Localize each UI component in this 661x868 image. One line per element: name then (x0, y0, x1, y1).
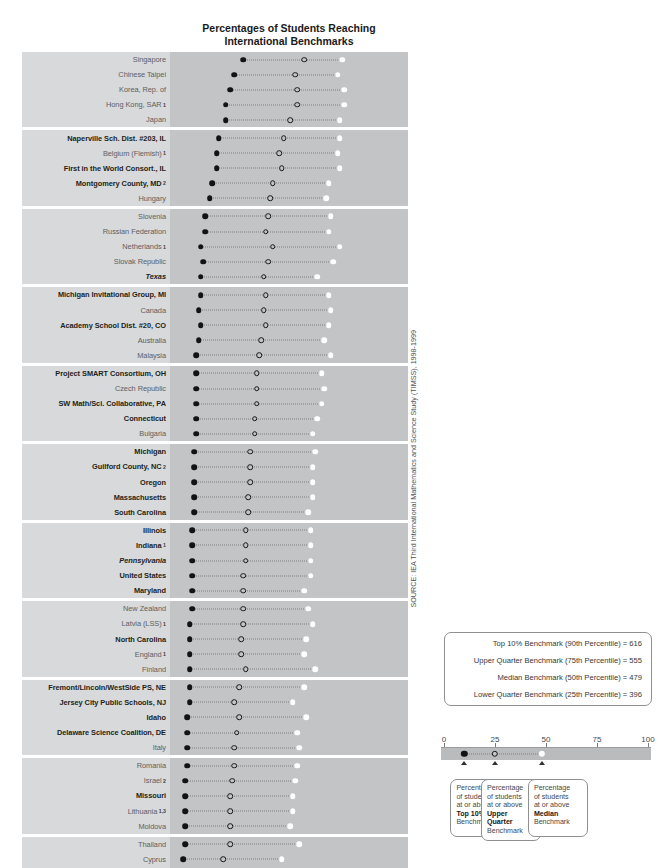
table-row[interactable]: Russian Federation (22, 224, 408, 239)
table-row[interactable]: Slovak Republic (22, 254, 408, 269)
upper-marker[interactable] (232, 700, 238, 706)
median-marker[interactable] (324, 196, 330, 202)
top10-marker[interactable] (194, 431, 200, 437)
median-marker[interactable] (290, 808, 296, 814)
median-marker[interactable] (297, 841, 303, 847)
top10-marker[interactable] (189, 588, 195, 594)
top10-marker[interactable] (187, 636, 193, 642)
table-row[interactable]: Oregon (22, 475, 408, 490)
table-row[interactable]: Michigan (22, 444, 408, 459)
top10-marker[interactable] (194, 353, 200, 359)
top10-marker[interactable] (182, 823, 188, 829)
upper-marker[interactable] (227, 808, 233, 814)
median-marker[interactable] (308, 573, 314, 579)
median-marker[interactable] (301, 588, 307, 594)
top10-marker[interactable] (241, 57, 247, 63)
top10-marker[interactable] (196, 307, 202, 313)
median-marker[interactable] (326, 322, 332, 328)
table-row[interactable]: Latvia (LSS)1 (22, 616, 408, 631)
top10-marker[interactable] (227, 87, 233, 93)
upper-marker[interactable] (292, 72, 298, 78)
median-marker[interactable] (341, 102, 347, 108)
top10-marker[interactable] (200, 259, 206, 265)
median-marker[interactable] (290, 700, 296, 706)
top10-marker[interactable] (189, 543, 195, 549)
table-row[interactable]: South Carolina (22, 505, 408, 520)
upper-marker[interactable] (236, 685, 242, 691)
table-row[interactable]: Canada (22, 303, 408, 318)
table-row[interactable]: Indiana1 (22, 538, 408, 553)
upper-marker[interactable] (252, 431, 258, 437)
top10-marker[interactable] (182, 778, 188, 784)
table-row[interactable]: Delaware Science Coalition, DE (22, 725, 408, 740)
upper-marker[interactable] (254, 371, 260, 377)
upper-marker[interactable] (270, 244, 276, 250)
table-row[interactable]: Naperville Sch. Dist. #203, IL (22, 130, 408, 145)
top10-marker[interactable] (189, 606, 195, 612)
median-marker[interactable] (328, 353, 334, 359)
median-marker[interactable] (315, 416, 321, 422)
upper-marker[interactable] (245, 494, 251, 500)
table-row[interactable]: Italy (22, 740, 408, 755)
upper-marker[interactable] (236, 715, 242, 721)
top10-marker[interactable] (194, 386, 200, 392)
median-marker[interactable] (279, 857, 285, 863)
median-marker[interactable] (308, 528, 314, 534)
top10-marker[interactable] (203, 229, 209, 235)
table-row[interactable]: New Zealand (22, 601, 408, 616)
top10-marker[interactable] (182, 808, 188, 814)
upper-marker[interactable] (256, 353, 262, 359)
table-row[interactable]: Michigan Invitational Group, MI (22, 287, 408, 302)
median-marker[interactable] (321, 337, 327, 343)
top10-marker[interactable] (207, 196, 213, 202)
table-row[interactable]: Malaysia (22, 348, 408, 363)
top10-marker[interactable] (182, 793, 188, 799)
upper-marker[interactable] (301, 57, 307, 63)
table-row[interactable]: Thailand (22, 837, 408, 852)
median-marker[interactable] (308, 543, 314, 549)
table-row[interactable]: Missouri (22, 788, 408, 803)
upper-marker[interactable] (229, 778, 235, 784)
upper-marker[interactable] (294, 87, 300, 93)
upper-marker[interactable] (265, 214, 271, 220)
median-marker[interactable] (328, 307, 334, 313)
upper-marker[interactable] (281, 135, 287, 141)
upper-marker[interactable] (234, 730, 240, 736)
top10-marker[interactable] (191, 464, 197, 470)
median-marker[interactable] (539, 751, 545, 757)
median-marker[interactable] (294, 763, 300, 769)
median-marker[interactable] (310, 431, 316, 437)
top10-marker[interactable] (198, 244, 204, 250)
top10-marker[interactable] (191, 494, 197, 500)
top10-marker[interactable] (194, 401, 200, 407)
upper-marker[interactable] (254, 386, 260, 392)
top10-marker[interactable] (194, 416, 200, 422)
table-row[interactable]: Jersey City Public Schools, NJ (22, 695, 408, 710)
median-marker[interactable] (294, 730, 300, 736)
median-marker[interactable] (312, 449, 318, 455)
table-row[interactable]: SW Math/Sci. Collaborative, PA (22, 396, 408, 411)
median-marker[interactable] (341, 87, 347, 93)
top10-marker[interactable] (185, 730, 191, 736)
median-marker[interactable] (319, 401, 325, 407)
top10-marker[interactable] (209, 181, 215, 187)
upper-marker[interactable] (263, 292, 269, 298)
upper-marker[interactable] (243, 528, 249, 534)
top10-marker[interactable] (196, 337, 202, 343)
top10-marker[interactable] (182, 841, 188, 847)
median-marker[interactable] (310, 494, 316, 500)
median-marker[interactable] (337, 165, 343, 171)
upper-marker[interactable] (288, 117, 294, 123)
top10-marker[interactable] (223, 117, 229, 123)
table-row[interactable]: Maryland (22, 583, 408, 598)
median-marker[interactable] (326, 292, 332, 298)
median-marker[interactable] (337, 117, 343, 123)
upper-marker[interactable] (243, 666, 249, 672)
table-row[interactable]: North Carolina (22, 631, 408, 646)
top10-marker[interactable] (189, 573, 195, 579)
top10-marker[interactable] (189, 558, 195, 564)
upper-marker[interactable] (227, 823, 233, 829)
top10-marker[interactable] (198, 322, 204, 328)
table-row[interactable]: Finland (22, 662, 408, 677)
upper-marker[interactable] (241, 621, 247, 627)
